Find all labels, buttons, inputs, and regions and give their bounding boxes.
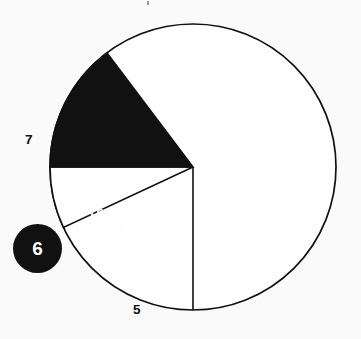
scan-speck-artifact: [147, 1, 149, 5]
callout-number-5: 5: [133, 303, 141, 317]
callout-number-7: 7: [25, 133, 33, 147]
pie-chart-svg: [0, 0, 361, 339]
slice-label-disciple-line1: The: [88, 204, 112, 219]
slice-label-disciple-line2: Disciple: [46, 220, 154, 236]
slice-label-disciple: The Disciple: [46, 204, 154, 235]
callout-badge-6: 6: [13, 224, 62, 273]
figure-root: THE DOING TRIAD The Disciple 7 5 6: [0, 0, 361, 339]
slice-label-doing-triad: THE DOING TRIAD: [52, 136, 184, 166]
slice-label-doing-triad-line1: THE DOING: [80, 136, 157, 151]
slice-label-doing-triad-line2: TRIAD: [52, 151, 184, 166]
